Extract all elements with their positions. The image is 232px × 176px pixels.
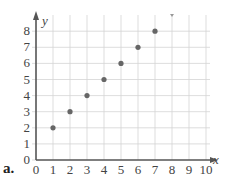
data-point	[101, 77, 106, 82]
x-tick-label: 2	[67, 162, 74, 176]
x-axis-label: x	[212, 152, 219, 167]
x-tick-label: 5	[118, 162, 125, 176]
data-point	[118, 61, 123, 66]
y-axis-label: y	[40, 13, 48, 28]
y-tick-label: 8	[24, 23, 31, 38]
x-tick-label: 3	[84, 162, 91, 176]
x-tick-label: 6	[135, 162, 142, 176]
y-tick-label: 7	[24, 39, 31, 54]
x-tick-label: 4	[101, 162, 108, 176]
x-tick-label: 1	[50, 162, 57, 176]
x-tick-label: 8	[169, 162, 176, 176]
data-point	[84, 93, 89, 98]
data-point	[50, 125, 55, 130]
y-tick-label: 5	[24, 72, 31, 87]
scatter-chart: 012345678910012345678 x y a.	[0, 0, 232, 176]
x-tick-label: 7	[152, 162, 159, 176]
axes	[33, 11, 218, 163]
grid-lines	[32, 14, 210, 160]
y-tick-label: 1	[24, 136, 31, 151]
y-tick-label: 3	[24, 104, 31, 119]
part-label: a.	[3, 160, 15, 176]
y-tick-label: 0	[24, 152, 31, 167]
data-point	[152, 29, 157, 34]
y-tick-label: 2	[24, 120, 31, 135]
top-marker-icon	[170, 14, 174, 17]
y-axis-arrow-icon	[33, 11, 39, 20]
data-point	[135, 45, 140, 50]
x-tick-label: 10	[200, 162, 213, 176]
x-tick-label: 0	[33, 162, 40, 176]
y-tick-label: 6	[24, 55, 31, 70]
data-point	[67, 109, 72, 114]
y-tick-label: 4	[24, 88, 31, 103]
x-tick-label: 9	[186, 162, 193, 176]
tick-labels: 012345678910012345678	[24, 23, 213, 176]
